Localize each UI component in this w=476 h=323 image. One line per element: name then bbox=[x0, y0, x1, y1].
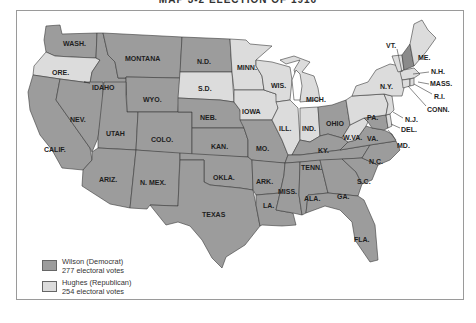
legend-item-hughes: Hughes (Republican) 254 electoral votes bbox=[42, 278, 131, 296]
state-ri bbox=[410, 78, 414, 86]
label-nc: N.C. bbox=[369, 158, 383, 165]
label-sc: S.C. bbox=[357, 178, 371, 185]
label-montana: MONTANA bbox=[125, 55, 160, 62]
label-va: VA. bbox=[367, 135, 378, 142]
leader-mass bbox=[418, 82, 429, 84]
hughes-swatch bbox=[42, 281, 57, 292]
label-wva: W.VA. bbox=[343, 134, 362, 141]
label-ri: R.I. bbox=[434, 93, 445, 100]
label-idaho: IDAHO bbox=[92, 84, 115, 91]
legend-item-wilson: Wilson (Democrat) 277 electoral votes bbox=[42, 257, 131, 275]
label-me: ME. bbox=[418, 54, 431, 61]
label-ark: ARK. bbox=[256, 178, 273, 185]
label-la: LA. bbox=[263, 202, 274, 209]
state-fla bbox=[306, 193, 378, 262]
label-wash: WASH. bbox=[63, 40, 86, 47]
label-nev: NEV. bbox=[70, 116, 86, 123]
label-wis: WIS. bbox=[271, 82, 286, 89]
state-colo bbox=[136, 112, 192, 155]
label-ill: ILL. bbox=[279, 125, 291, 132]
label-ariz: ARIZ. bbox=[99, 176, 117, 183]
map-legend: Wilson (Democrat) 277 electoral votes Hu… bbox=[42, 257, 131, 299]
label-pa: PA. bbox=[367, 114, 378, 121]
label-colo: COLO. bbox=[151, 136, 173, 143]
state-iowa bbox=[234, 90, 278, 120]
label-ny: N.Y. bbox=[380, 83, 393, 90]
label-md: MD. bbox=[397, 142, 410, 149]
label-iowa: IOWA bbox=[242, 108, 261, 115]
label-nj: N.J. bbox=[405, 116, 418, 123]
label-wyo: WYO. bbox=[143, 96, 162, 103]
label-minn: MINN. bbox=[237, 64, 257, 71]
label-neb: NEB. bbox=[200, 114, 217, 121]
legend-hughes-label: Hughes (Republican) bbox=[62, 278, 131, 287]
state-nd bbox=[180, 37, 232, 72]
legend-wilson-votes: 277 electoral votes bbox=[62, 266, 124, 275]
legend-hughes-votes: 254 electoral votes bbox=[62, 287, 131, 296]
label-mass: MASS. bbox=[430, 80, 452, 87]
label-ky: KY. bbox=[318, 147, 329, 154]
label-mo: MO. bbox=[256, 145, 269, 152]
label-miss: MISS. bbox=[278, 188, 297, 195]
label-conn: CONN. bbox=[427, 106, 450, 113]
leader-del bbox=[391, 124, 400, 128]
leader-nj bbox=[393, 112, 403, 118]
label-ala: ALA. bbox=[304, 195, 320, 202]
label-utah: UTAH bbox=[106, 130, 125, 137]
label-vt: VT. bbox=[386, 42, 396, 49]
label-ohio: OHIO bbox=[326, 120, 344, 127]
label-ind: IND. bbox=[302, 125, 316, 132]
label-ga: GA. bbox=[337, 193, 350, 200]
label-mich: MICH. bbox=[306, 96, 326, 103]
label-del: DEL. bbox=[401, 126, 417, 133]
label-fla: FLA. bbox=[354, 236, 370, 243]
legend-wilson-label: Wilson (Democrat) bbox=[62, 257, 124, 266]
state-wyo bbox=[126, 77, 180, 112]
label-nmex: N. MEX. bbox=[140, 179, 166, 186]
label-okla: OKLA. bbox=[213, 174, 235, 181]
label-ore: ORE. bbox=[52, 69, 69, 76]
label-sd: S.D. bbox=[198, 85, 212, 92]
wilson-swatch bbox=[42, 260, 57, 271]
label-calif: CALIF. bbox=[44, 146, 66, 153]
label-tenn: TENN. bbox=[301, 164, 322, 171]
label-texas: TEXAS bbox=[202, 211, 226, 218]
label-nd: N.D. bbox=[197, 58, 211, 65]
label-nh: N.H. bbox=[431, 68, 445, 75]
label-kan: KAN. bbox=[211, 143, 228, 150]
state-ny bbox=[352, 64, 404, 96]
